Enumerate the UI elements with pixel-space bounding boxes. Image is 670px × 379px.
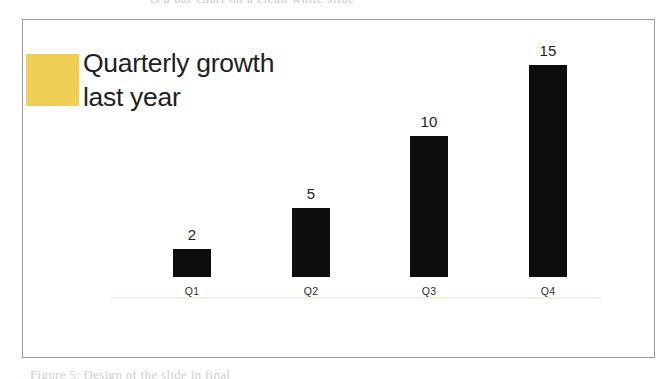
scan-artifact-bottom-caption: Figure 5: Design of the slide in final: [30, 367, 360, 379]
bar-value-label: 10: [420, 114, 437, 129]
bar-category-label: Q3: [422, 286, 436, 297]
bar-value-label: 2: [188, 227, 197, 242]
bar-group[interactable]: 15Q4: [529, 65, 567, 277]
bar-rect[interactable]: [529, 65, 567, 277]
bar-value-label: 15: [539, 43, 556, 58]
bar-group[interactable]: 10Q3: [410, 136, 448, 277]
bar-rect[interactable]: [410, 136, 448, 277]
bar-category-label: Q2: [304, 286, 318, 297]
bar-rect[interactable]: [292, 208, 330, 277]
bar-category-label: Q4: [541, 286, 555, 297]
bar-rect[interactable]: [173, 249, 211, 277]
bar-group[interactable]: 5Q2: [292, 208, 330, 277]
bar-value-label: 5: [307, 186, 316, 201]
scan-artifact-top-text: is a bar chart on a clean white slide: [150, 0, 570, 5]
bar-group[interactable]: 2Q1: [173, 249, 211, 277]
slide-frame: Quarterly growth last year 2Q15Q210Q315Q…: [22, 19, 655, 358]
chart-plot-area: 2Q15Q210Q315Q4: [23, 20, 654, 357]
bar-category-label: Q1: [185, 286, 199, 297]
axis-baseline: [110, 297, 602, 299]
